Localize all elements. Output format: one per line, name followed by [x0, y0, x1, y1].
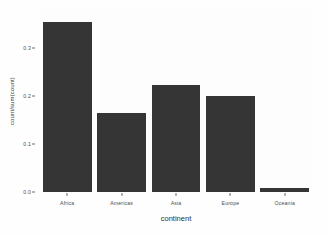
y-tick-label: 0.3	[23, 45, 31, 51]
bar-chart: 0.00.10.20.3 count/sum(count) AfricaAmer…	[0, 0, 329, 235]
x-tick-label-americas: Americas	[110, 200, 133, 206]
x-tick-label-europe: Europe	[222, 200, 240, 206]
y-tick-label: 0.0	[23, 189, 31, 195]
x-tick-mark	[121, 193, 122, 196]
y-axis-title: count/sum(count)	[9, 77, 15, 125]
x-tick-mark	[176, 193, 177, 196]
x-axis: AfricaAmericasAsiaEuropeOceania	[40, 192, 312, 212]
y-tick-label: 0.2	[23, 93, 31, 99]
y-tick-mark	[32, 143, 35, 144]
y-tick-mark	[32, 192, 35, 193]
bar-americas	[97, 113, 146, 192]
plot-panel	[40, 10, 312, 192]
x-axis-title: continent	[161, 214, 191, 223]
y-tick-mark	[32, 95, 35, 96]
x-tick-label-asia: Asia	[171, 200, 182, 206]
bar-africa	[43, 22, 92, 192]
y-axis: 0.00.10.20.3	[0, 0, 40, 235]
y-tick-label: 0.1	[23, 141, 31, 147]
bar-asia	[152, 85, 201, 192]
x-tick-label-africa: Africa	[60, 200, 74, 206]
bar-europe	[206, 96, 255, 192]
x-tick-mark	[284, 193, 285, 196]
x-tick-mark	[230, 193, 231, 196]
y-tick-mark	[32, 47, 35, 48]
x-tick-mark	[67, 193, 68, 196]
x-tick-label-oceania: Oceania	[275, 200, 295, 206]
